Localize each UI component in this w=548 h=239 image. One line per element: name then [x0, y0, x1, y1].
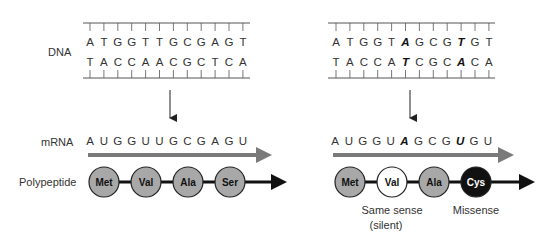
- dna-bottom-base: T: [402, 56, 410, 68]
- mrna-base: U: [239, 135, 247, 147]
- amino-acid-label: Ser: [222, 177, 238, 188]
- dna-top-base: G: [359, 36, 368, 48]
- dna-bottom-base: C: [360, 56, 368, 68]
- mrna-base: G: [414, 135, 423, 147]
- dna-bottom-base: A: [346, 56, 354, 68]
- mrna-base: G: [372, 135, 381, 147]
- dna-bottom-base: A: [388, 56, 396, 68]
- mrna-base: C: [428, 135, 436, 147]
- mrna-base: G: [225, 135, 234, 147]
- dna-top-base: T: [239, 36, 246, 48]
- dna-top-base: A: [332, 36, 340, 48]
- mrna-base: A: [211, 135, 219, 147]
- mrna-arrowhead-icon: [256, 147, 272, 163]
- mrna-base: U: [141, 135, 149, 147]
- dna-bottom-base: C: [471, 56, 479, 68]
- dna-top-base: G: [471, 36, 480, 48]
- mutation-type-note: Same sense: [361, 204, 422, 216]
- dna-bottom-base: C: [114, 56, 122, 68]
- dna-top-base: T: [458, 36, 466, 48]
- dna-bottom-base: C: [128, 56, 136, 68]
- dna-top-base: A: [211, 36, 219, 48]
- dna-top-base: G: [127, 36, 136, 48]
- mrna-base: U: [484, 135, 492, 147]
- mrna-base: G: [358, 135, 367, 147]
- dna-top-base: T: [142, 36, 149, 48]
- mrna-base: C: [183, 135, 191, 147]
- mrna-base: G: [470, 135, 479, 147]
- dna-bottom-base: C: [443, 56, 451, 68]
- dna-bottom-base: T: [86, 56, 93, 68]
- mrna-base: U: [456, 135, 465, 147]
- dna-top-base: G: [197, 36, 206, 48]
- wild-type-panel: ATGGTTGCGAGTTACCAACGCTCAAUGGUUGCGAGUMetV…: [83, 23, 287, 197]
- dna-top-base: C: [183, 36, 191, 48]
- dna-bottom-base: C: [197, 56, 205, 68]
- mrna-base: G: [169, 135, 178, 147]
- dna-bottom-base: A: [239, 56, 247, 68]
- dna-top-base: A: [400, 36, 409, 48]
- polypeptide-arrowhead-icon: [519, 174, 535, 190]
- amino-acid-label: Met: [95, 177, 113, 188]
- amino-acid-label: Met: [341, 177, 359, 188]
- dna-bottom-base: C: [415, 56, 423, 68]
- amino-acid-label: Ala: [426, 177, 442, 188]
- point-mutation-diagram: DNA mRNA Polypeptide ATGGTTGCGAGTTACCAAC…: [0, 0, 548, 239]
- dna-top-base: T: [156, 36, 163, 48]
- dna-top-base: T: [485, 36, 492, 48]
- dna-top-base: G: [415, 36, 424, 48]
- dna-bottom-base: A: [142, 56, 150, 68]
- amino-acid-label: Val: [385, 177, 400, 188]
- mutation-type-note: (silent): [369, 219, 402, 231]
- dna-bottom-base: C: [225, 56, 233, 68]
- dna-bottom-base: G: [183, 56, 192, 68]
- polypeptide-label: Polypeptide: [19, 176, 77, 188]
- dna-bottom-base: G: [429, 56, 438, 68]
- mrna-base: A: [399, 135, 408, 147]
- dna-top-base: G: [443, 36, 452, 48]
- dna-top-base: T: [388, 36, 395, 48]
- amino-acid-label: Val: [139, 177, 154, 188]
- dna-top-base: C: [429, 36, 437, 48]
- dna-bottom-base: A: [485, 56, 493, 68]
- dna-bottom-base: A: [156, 56, 164, 68]
- dna-top-base: G: [169, 36, 178, 48]
- amino-acid-label: Ala: [180, 177, 196, 188]
- mrna-base: U: [345, 135, 353, 147]
- polypeptide-arrowhead-icon: [271, 174, 287, 190]
- dna-bottom-base: T: [332, 56, 339, 68]
- mutant-panel: ATGGTAGCGTGTTACCATCGCACAAUGGUAGCGUGUMetV…: [328, 23, 535, 231]
- dna-bottom-base: C: [374, 56, 382, 68]
- mrna-base: G: [442, 135, 451, 147]
- mrna-base: G: [127, 135, 136, 147]
- mrna-base: A: [86, 135, 94, 147]
- mrna-base: G: [113, 135, 122, 147]
- dna-top-base: G: [113, 36, 122, 48]
- dna-top-base: G: [373, 36, 382, 48]
- dna-top-base: A: [86, 36, 94, 48]
- dna-bottom-base: A: [456, 56, 465, 68]
- mrna-base: U: [155, 135, 163, 147]
- dna-top-base: G: [225, 36, 234, 48]
- mrna-base: G: [197, 135, 206, 147]
- mutation-type-note: Missense: [453, 204, 499, 216]
- dna-top-base: T: [346, 36, 353, 48]
- dna-top-base: T: [100, 36, 107, 48]
- mrna-base: U: [386, 135, 394, 147]
- dna-bottom-base: T: [212, 56, 219, 68]
- amino-acid-label: Cys: [467, 177, 486, 188]
- mrna-base: U: [100, 135, 108, 147]
- dna-bottom-base: A: [100, 56, 108, 68]
- mrna-arrowhead-icon: [498, 147, 514, 163]
- dna-label: DNA: [48, 46, 72, 58]
- mrna-label: mRNA: [41, 136, 74, 148]
- mrna-base: A: [331, 135, 339, 147]
- dna-bottom-base: C: [169, 56, 177, 68]
